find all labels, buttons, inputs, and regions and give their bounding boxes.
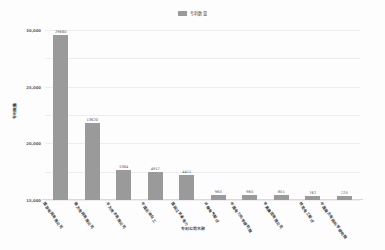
y-axis-title: 专利数量 xyxy=(11,103,17,119)
bar-slot: 960 xyxy=(203,30,235,200)
bar[interactable] xyxy=(337,196,352,200)
bar-value-label: 13620 xyxy=(87,118,98,122)
bar[interactable] xyxy=(148,172,163,200)
bar[interactable] xyxy=(179,175,194,200)
bar-slot: 762 xyxy=(297,30,329,200)
bar-slot: 801 xyxy=(266,30,298,200)
bar-value-label: 720 xyxy=(341,191,348,195)
bar-value-label: 801 xyxy=(278,190,285,194)
y-axis-tick-label: 20,000 xyxy=(26,141,41,146)
bar[interactable] xyxy=(85,123,100,200)
bar-slot: 4917 xyxy=(140,30,172,200)
bar-slot: 4411 xyxy=(171,30,203,200)
bar[interactable] xyxy=(242,195,257,200)
plot-area: 05,00010,00015,00020,00025,00030,000 296… xyxy=(45,30,360,200)
bar-value-label: 4917 xyxy=(151,167,160,171)
bar[interactable] xyxy=(305,196,320,200)
legend-color-swatch xyxy=(178,11,187,16)
legend-item-label[interactable]: 专利数量 xyxy=(190,10,206,16)
bar-chart: 专利数量 专利数量 05,00010,00015,00020,00025,000… xyxy=(0,0,385,250)
bar-slot: 720 xyxy=(329,30,361,200)
bar-value-label: 960 xyxy=(215,190,222,194)
y-axis-tick-label: 30,000 xyxy=(26,28,41,33)
bar-value-label: 4411 xyxy=(182,170,191,174)
bar-slot: 5364 xyxy=(108,30,140,200)
bar[interactable] xyxy=(211,195,226,200)
bar[interactable] xyxy=(53,35,68,200)
bar[interactable] xyxy=(116,170,131,200)
bar[interactable] xyxy=(274,195,289,200)
bar-series: 2966013620536449174411960960801762720 xyxy=(45,30,360,200)
bar-slot: 960 xyxy=(234,30,266,200)
bar-slot: 13620 xyxy=(77,30,109,200)
x-axis-title: 专利公司名称 xyxy=(0,225,385,231)
y-axis-tick-label: 15,000 xyxy=(26,198,41,203)
bar-value-label: 5364 xyxy=(119,165,128,169)
bar-value-label: 29660 xyxy=(55,30,66,34)
bar-value-label: 960 xyxy=(246,190,253,194)
bar-value-label: 762 xyxy=(309,191,316,195)
chart-legend: 专利数量 xyxy=(0,10,385,16)
y-axis-tick-label: 25,000 xyxy=(26,84,41,89)
bar-slot: 29660 xyxy=(45,30,77,200)
